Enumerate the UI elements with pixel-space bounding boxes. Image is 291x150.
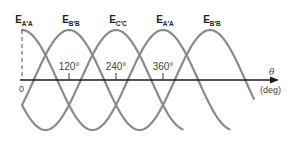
tick-label: 240° bbox=[106, 61, 127, 72]
tick-label: 120° bbox=[59, 61, 80, 72]
emf-label: EA′A bbox=[15, 14, 33, 27]
axis-arrow-icon bbox=[270, 77, 279, 84]
unit-label: (deg) bbox=[260, 85, 281, 95]
tick-label: 360° bbox=[153, 61, 174, 72]
emf-label: EA′A bbox=[156, 14, 174, 27]
three-phase-voltage-diagram: 120°240°360° 0 θ (deg) EA′AEB′BEC′CEA′AE… bbox=[0, 0, 291, 150]
axis-ticks: 120°240°360° bbox=[59, 61, 174, 80]
emf-label: EB′B bbox=[62, 14, 80, 27]
origin-label: 0 bbox=[19, 84, 24, 94]
peak-labels: EA′AEB′BEC′CEA′AEB′B bbox=[15, 14, 221, 27]
theta-label: θ bbox=[269, 67, 275, 77]
emf-label: EB′B bbox=[203, 14, 221, 27]
emf-label: EC′C bbox=[109, 14, 127, 27]
